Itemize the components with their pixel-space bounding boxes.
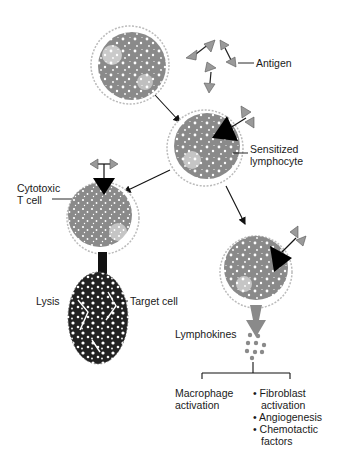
- bullet: •: [253, 387, 257, 399]
- label-sensitized-lymphocyte: Sensitized lymphocyte: [250, 143, 303, 167]
- naive-lymphocyte: [91, 26, 169, 104]
- cytotoxic-t-cell: [67, 159, 139, 254]
- effects-bracket: [202, 362, 290, 379]
- bullet: •: [253, 411, 257, 423]
- lymphokine-dots: [245, 333, 266, 360]
- effect-item: • Chemotactic: [253, 423, 337, 435]
- antigen-icon: [220, 40, 236, 67]
- label-cytotoxic-line1: Cytotoxic: [17, 182, 60, 194]
- antigen-icon: [110, 159, 118, 169]
- arrow-to-lymphokine-cell: [226, 186, 245, 224]
- effect-line1: Fibroblast: [260, 387, 306, 399]
- antigen-icon: [90, 159, 98, 169]
- effect-line2: activation: [253, 399, 337, 411]
- label-lysis: Lysis: [36, 295, 60, 307]
- effect-line1: Angiogenesis: [259, 411, 322, 423]
- effect-item: • Fibroblast: [253, 387, 337, 399]
- arrow-to-cytotoxic: [124, 170, 170, 192]
- contact-stalk: [98, 252, 107, 274]
- antigen-icon: [290, 226, 298, 238]
- label-macrophage-line1: Macrophage: [175, 387, 233, 399]
- effect-line2: factors: [253, 435, 337, 447]
- effects-list: • Fibroblast activation • Angiogenesis •…: [253, 387, 337, 447]
- label-antigen: Antigen: [256, 57, 292, 69]
- bullet: •: [253, 423, 257, 435]
- label-target-cell: Target cell: [130, 295, 178, 307]
- secretion-arrow-icon: [246, 305, 266, 337]
- arrow-sensitization: [155, 95, 180, 122]
- label-macrophage-activation: Macrophage activation: [175, 387, 233, 411]
- label-cytotoxic-t-cell: Cytotoxic T cell: [17, 182, 60, 206]
- label-sensitized-line2: lymphocyte: [250, 155, 303, 167]
- lymphokine-producing-cell: [220, 226, 306, 308]
- label-macrophage-line2: activation: [175, 399, 233, 411]
- label-sensitized-line1: Sensitized: [250, 143, 303, 155]
- label-cytotoxic-line2: T cell: [17, 194, 60, 206]
- effect-item: • Angiogenesis: [253, 411, 337, 423]
- effect-line1: Chemotactic: [260, 423, 318, 435]
- antigen-icon: [186, 40, 215, 60]
- sensitized-lymphocyte: [167, 106, 254, 186]
- antigen-icon: [204, 62, 216, 93]
- antigen-group: [186, 40, 236, 93]
- antigen-icon: [241, 106, 251, 118]
- target-cell: [68, 272, 128, 364]
- label-lymphokines: Lymphokines: [175, 328, 236, 340]
- antigen-icon: [245, 117, 254, 128]
